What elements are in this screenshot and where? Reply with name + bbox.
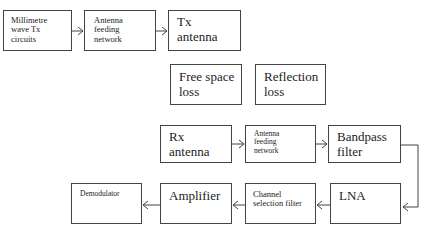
block-amplifier: Amplifier	[160, 183, 232, 224]
block-millimetre-wave-tx-circuits: Millimetre wave Tx circuits	[3, 10, 72, 51]
block-label: Bandpass filter	[337, 130, 387, 160]
block-tx-antenna: Tx antenna	[168, 10, 241, 51]
block-label: Tx antenna	[177, 15, 217, 45]
block-label: Antenna feeding network	[94, 16, 123, 44]
block-bandpass-filter: Bandpass filter	[328, 125, 401, 163]
block-channel-selection-filter: Channel selection filter	[245, 183, 316, 224]
block-label: Channel selection filter	[253, 190, 302, 209]
block-label: Free space loss	[179, 70, 234, 100]
block-demodulator: Demodulator	[71, 183, 142, 224]
block-label: Rx antenna	[169, 130, 209, 160]
block-tx-antenna-feeding-network: Antenna feeding network	[84, 10, 156, 51]
block-reflection-loss: Reflection loss	[255, 64, 326, 105]
block-label: LNA	[339, 189, 366, 204]
block-label: Demodulator	[80, 190, 120, 198]
block-label: Antenna feeding network	[254, 130, 279, 155]
block-lna: LNA	[330, 183, 401, 224]
block-free-space-loss: Free space loss	[170, 64, 242, 105]
block-label: Amplifier	[169, 189, 220, 204]
block-label: Millimetre wave Tx circuits	[11, 16, 47, 44]
block-rx-antenna-feeding-network: Antenna feeding network	[245, 125, 316, 163]
block-rx-antenna: Rx antenna	[160, 125, 232, 163]
block-label: Reflection loss	[264, 70, 318, 100]
